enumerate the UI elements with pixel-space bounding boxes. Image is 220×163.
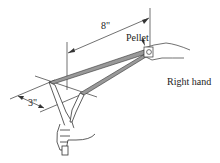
fork-right-arm: [70, 93, 84, 122]
handle-end: [62, 146, 68, 155]
label-band-spacing: 3": [28, 98, 37, 108]
label-draw-length: 8": [101, 21, 110, 31]
pellet: [147, 50, 152, 55]
label-pellet: Pellet: [126, 33, 149, 43]
right-hand-bottom: [146, 57, 184, 60]
label-right-hand: Right hand: [167, 77, 211, 87]
